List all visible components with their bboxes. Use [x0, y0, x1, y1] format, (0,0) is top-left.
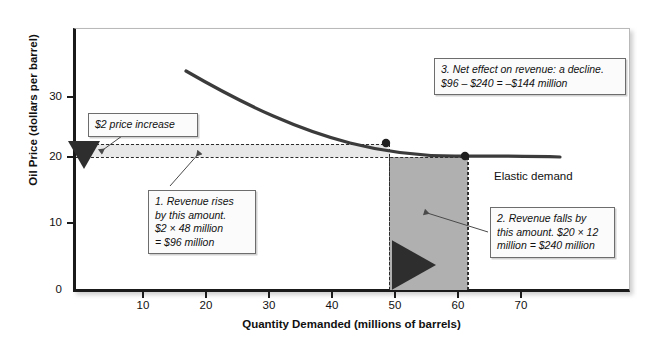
point-old-equilibrium: [461, 152, 469, 160]
leader-line-box1: [170, 152, 200, 186]
callout-box-1: 1. Revenue rises by this amount. $2 × 48…: [148, 190, 256, 254]
oil-price-elastic-demand-figure: 30 20 10 0 10 20 30 40 50 60 70 Oil Pric…: [0, 0, 670, 349]
elastic-demand-label: Elastic demand: [494, 170, 573, 182]
point-new-equilibrium: [382, 139, 390, 147]
callout-price-increase: $2 price increase: [88, 113, 198, 137]
leader-line-box2: [424, 212, 488, 232]
callout-box-2: 2. Revenue falls by this amount. $20 × 1…: [490, 207, 615, 258]
leader-line-price-increase: [100, 136, 122, 152]
callout-box-3: 3. Net effect on revenue: a decline. $96…: [434, 58, 626, 95]
